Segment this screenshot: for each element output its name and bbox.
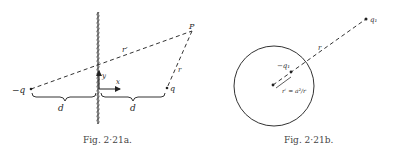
figure-b: q₁ −q₁ r r′ = a²/r Fig. 2·21b.	[234, 16, 377, 145]
r-prime-label: r′	[122, 45, 128, 54]
x-axis-label: x	[116, 78, 120, 86]
r-line	[167, 31, 192, 88]
image-charge-dot	[290, 71, 293, 74]
conducting-sphere	[234, 46, 314, 126]
neg-charge-dot	[30, 88, 33, 91]
figure-a: −q q P r′ r y x d d Fig. 2·21a.	[12, 12, 195, 145]
r-line-b	[273, 19, 366, 85]
brace-left	[32, 93, 96, 101]
outer-charge-label: q₁	[370, 16, 377, 24]
outer-charge-dot	[365, 18, 368, 21]
r-prime-eq-label: r′ = a²/r	[282, 87, 307, 94]
caption-b: Fig. 2·21b.	[284, 135, 333, 145]
y-axis-label: y	[101, 72, 107, 80]
point-label: P	[188, 22, 195, 31]
image-charge-label: −q₁	[277, 62, 290, 70]
figure-canvas: −q q P r′ r y x d d Fig. 2·21a. q₁ −q₁ r…	[0, 0, 394, 146]
center-dot	[272, 84, 275, 87]
d-left-label: d	[58, 103, 64, 113]
caption-a: Fig. 2·21a.	[83, 135, 132, 145]
neg-charge-label: −q	[12, 85, 26, 95]
brace-right	[101, 93, 165, 101]
r-prime-line	[31, 31, 192, 89]
r-label: r	[178, 66, 182, 74]
charge-dot	[166, 87, 169, 90]
d-right-label: d	[130, 103, 136, 113]
charge-label: q	[170, 84, 175, 93]
